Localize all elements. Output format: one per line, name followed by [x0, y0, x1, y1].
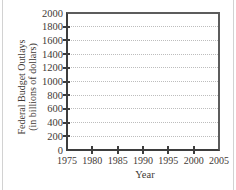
x-axis-tick: [117, 146, 119, 154]
y-gridline: [69, 95, 218, 96]
y-gridline: [69, 67, 218, 68]
y-gridline: [69, 108, 218, 109]
x-axis-tick: [91, 146, 93, 154]
y-axis-tick: [63, 26, 70, 28]
y-gridline: [69, 81, 218, 82]
y-axis-tick: [63, 94, 70, 96]
x-axis-tick: [167, 146, 169, 154]
y-axis-title-line2: (in billions of dollars): [27, 43, 38, 131]
x-axis-tick: [193, 146, 195, 154]
y-gridline: [69, 26, 218, 27]
y-axis-tick: [63, 67, 70, 69]
x-tick-label: 2005: [204, 155, 234, 166]
y-axis-tick: [63, 122, 70, 124]
y-axis-title-line1: Federal Budget Outlays: [16, 40, 27, 135]
chart-figure: 0200400600800100012001400160018002000197…: [0, 0, 236, 190]
y-axis-tick: [63, 39, 70, 41]
x-axis-title: Year: [120, 169, 170, 180]
y-gridline: [69, 54, 218, 55]
y-gridline: [69, 40, 218, 41]
y-axis-tick: [63, 108, 70, 110]
x-axis-tick: [142, 146, 144, 154]
y-axis-tick: [63, 81, 70, 83]
y-axis-tick: [63, 135, 70, 137]
y-gridline: [69, 122, 218, 123]
y-axis-title: Federal Budget Outlays (in billions of d…: [16, 17, 38, 157]
y-axis-tick: [63, 53, 70, 55]
y-gridline: [69, 136, 218, 137]
